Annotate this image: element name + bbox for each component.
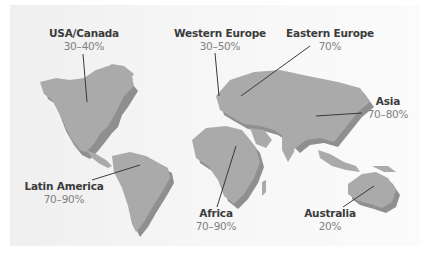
central-america	[86, 150, 112, 168]
region-value: 30–50%	[170, 40, 270, 53]
label-asia: Asia 70–80%	[360, 95, 416, 121]
region-name: Africa	[188, 207, 244, 220]
region-name: Eastern Europe	[282, 27, 378, 40]
region-name: Latin America	[24, 180, 104, 193]
label-australia: Australia 20%	[300, 207, 360, 233]
region-name: Asia	[360, 95, 416, 108]
australia	[348, 172, 396, 208]
label-africa: Africa 70–90%	[188, 207, 244, 233]
region-value: 30–40%	[48, 40, 120, 53]
region-name: Western Europe	[170, 27, 270, 40]
india	[282, 134, 296, 162]
new-guinea	[372, 166, 396, 172]
region-value: 70–80%	[360, 108, 416, 121]
region-value: 20%	[300, 220, 360, 233]
region-value: 70–90%	[24, 193, 104, 206]
leader-western-europe	[215, 53, 219, 96]
region-value: 70%	[282, 40, 378, 53]
madagascar	[262, 180, 266, 196]
region-value: 70–90%	[188, 220, 244, 233]
label-usa-canada: USA/Canada 30–40%	[48, 27, 120, 53]
region-name: USA/Canada	[48, 27, 120, 40]
label-eastern-europe: Eastern Europe 70%	[282, 27, 378, 53]
region-name: Australia	[300, 207, 360, 220]
southeast-asia-islands	[318, 150, 360, 172]
label-latin-america: Latin America 70–90%	[24, 180, 104, 206]
south-america	[112, 152, 170, 232]
label-western-europe: Western Europe 30–50%	[170, 27, 270, 53]
